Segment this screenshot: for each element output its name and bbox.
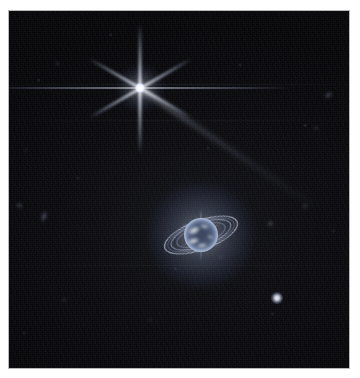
streak-lower: [9, 265, 349, 266]
image-frame: [9, 11, 349, 368]
background-star-field: [9, 11, 349, 368]
astronomy-image-figure: [0, 0, 360, 378]
streak-mid: [9, 120, 349, 121]
streak-upper: [9, 84, 349, 85]
